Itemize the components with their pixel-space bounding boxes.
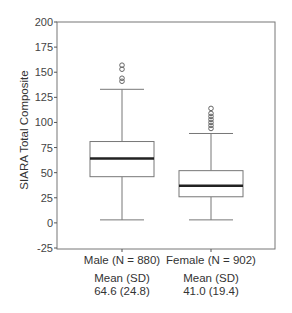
x-category-male: Male (N = 880) xyxy=(72,254,172,266)
y-tick-label: 175 xyxy=(35,41,53,53)
y-tick-label: 125 xyxy=(35,91,53,103)
y-tick-label: 25 xyxy=(41,192,53,204)
y-tick-label: 0 xyxy=(47,217,53,229)
box-female xyxy=(179,106,243,252)
y-tick-label: 200 xyxy=(35,16,53,28)
iqr-box xyxy=(179,171,243,197)
box-plot: -250255075100125150175200 SIARA Total Co… xyxy=(0,0,292,313)
y-axis-label: SIARA Total Composite xyxy=(18,70,30,189)
outlier-point xyxy=(209,106,214,111)
y-tick-label: -25 xyxy=(37,242,53,254)
y-tick-label: 75 xyxy=(41,142,53,154)
y-tick-label: 100 xyxy=(35,116,53,128)
plot-frame xyxy=(57,22,275,249)
male-stat-value: 64.6 (24.8) xyxy=(72,285,172,297)
y-axis: -250255075100125150175200 xyxy=(35,16,57,254)
female-stat-header: Mean (SD) xyxy=(161,272,261,284)
plot-border xyxy=(57,22,275,249)
boxes xyxy=(90,63,243,252)
box-male xyxy=(90,63,154,252)
x-category-female: Female (N = 902) xyxy=(161,254,261,266)
female-stat-value: 41.0 (19.4) xyxy=(161,285,261,297)
male-stat-header: Mean (SD) xyxy=(72,272,172,284)
outlier-point xyxy=(209,111,214,116)
y-tick-label: 150 xyxy=(35,66,53,78)
outlier-point xyxy=(120,76,125,81)
y-tick-label: 50 xyxy=(41,167,53,179)
